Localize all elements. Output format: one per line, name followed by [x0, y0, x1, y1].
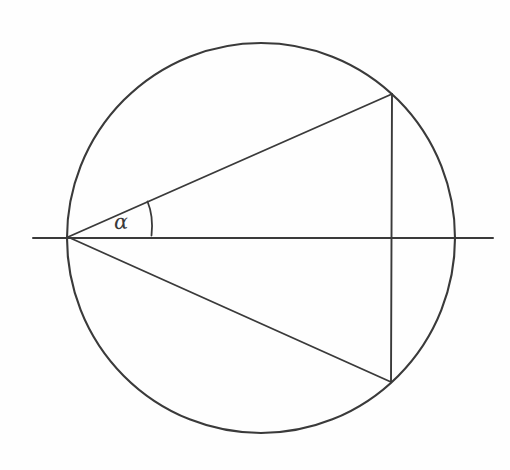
- figure-canvas: [0, 0, 510, 470]
- geometry-figure: α: [0, 0, 510, 470]
- angle-arc-marker: [148, 202, 152, 236]
- alpha-angle-label: α: [113, 212, 128, 234]
- vertical-chord: [391, 94, 392, 382]
- lower-triangle-side: [68, 237, 391, 382]
